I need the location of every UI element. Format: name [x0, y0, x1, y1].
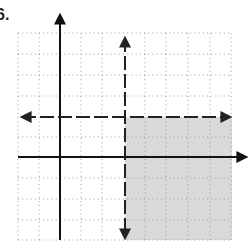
graph-figure: 6.	[0, 0, 248, 250]
coordinate-plane	[0, 0, 248, 250]
